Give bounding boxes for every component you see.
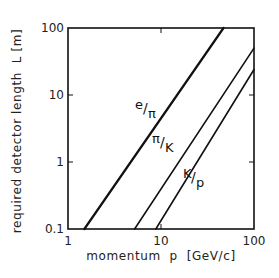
curve-label-numerator: π [152, 131, 160, 146]
plot-frame [68, 28, 254, 229]
curves [84, 28, 254, 229]
x-tick-label: 1 [64, 234, 72, 248]
y-tick-label: 10 [49, 88, 64, 102]
y-tick-label: 100 [41, 21, 64, 35]
curve-label: K/p [183, 166, 204, 190]
y-axis-label: required detector length L [m] [10, 29, 24, 234]
curve-label-denominator: π [148, 106, 156, 121]
x-tick-label: 10 [153, 234, 168, 248]
curve-label-denominator: p [196, 175, 204, 190]
y-tick-label: 0.1 [45, 222, 64, 236]
y-tick-label: 1 [56, 155, 64, 169]
momentum-vs-detector-length-chart: 1101000.1110100 e/ππ/KK/p momentum p [Ge… [0, 0, 279, 278]
x-axis-label: momentum p [GeV/c] [86, 249, 235, 263]
plot-border [68, 28, 254, 229]
x-tick-label: 100 [243, 234, 266, 248]
curve-label-denominator: K [165, 140, 174, 155]
curve-label: π/K [152, 131, 174, 155]
curve-label: e/π [135, 97, 156, 121]
curve-label-numerator: e [135, 97, 143, 112]
